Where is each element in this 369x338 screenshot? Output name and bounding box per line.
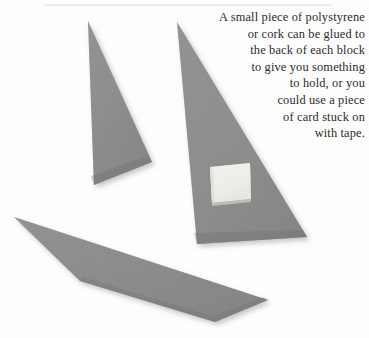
photo-figure: A small piece of polystyrene or cork can… <box>0 0 369 338</box>
photograph-canvas <box>0 0 369 338</box>
polystyrene-block <box>210 163 251 206</box>
